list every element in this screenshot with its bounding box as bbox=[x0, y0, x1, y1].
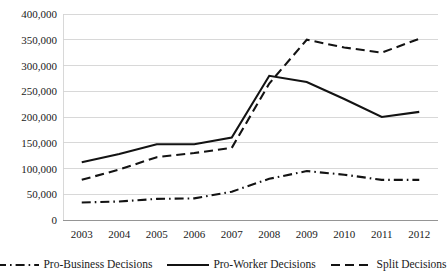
legend-item[interactable]: Pro-Business Decisions bbox=[0, 259, 152, 271]
series-line bbox=[82, 39, 420, 180]
legend-item[interactable]: Pro-Worker Decisions bbox=[166, 259, 315, 271]
legend-label: Split Decisions bbox=[377, 259, 447, 271]
series-line bbox=[82, 76, 420, 163]
chart-canvas: 050,000100,000150,000200,000250,000300,0… bbox=[0, 0, 443, 250]
y-axis-tick-label: 400,000 bbox=[21, 8, 57, 20]
y-axis-tick-label: 100,000 bbox=[21, 163, 57, 175]
y-axis-tick-label: 50,000 bbox=[27, 188, 58, 200]
series-lines bbox=[82, 39, 420, 203]
series-line bbox=[82, 171, 420, 202]
y-axis-tick-label: 150,000 bbox=[21, 137, 57, 149]
x-axis-tick-label: 2011 bbox=[371, 228, 393, 240]
x-axis-tick-label: 2008 bbox=[258, 228, 281, 240]
y-axis-tick-label: 200,000 bbox=[21, 111, 57, 123]
plot-area: 050,000100,000150,000200,000250,000300,0… bbox=[0, 0, 443, 250]
y-axis-tick-label: 250,000 bbox=[21, 85, 57, 97]
y-axis-tick-labels: 050,000100,000150,000200,000250,000300,0… bbox=[21, 8, 57, 226]
legend-item[interactable]: Split Decisions bbox=[330, 259, 447, 271]
y-axis-tick-label: 0 bbox=[52, 214, 58, 226]
legend-label: Pro-Business Decisions bbox=[43, 259, 152, 271]
x-axis-tick-label: 2006 bbox=[183, 228, 206, 240]
x-axis-tick-label: 2005 bbox=[146, 228, 169, 240]
x-axis-tick-labels: 2003200420052006200720082009201020112012 bbox=[71, 228, 431, 240]
y-axis-tick-label: 350,000 bbox=[21, 34, 57, 46]
x-axis-tick-label: 2004 bbox=[108, 228, 131, 240]
chart-legend: Pro-Business DecisionsPro-Worker Decisio… bbox=[0, 252, 443, 278]
x-axis-tick-label: 2009 bbox=[296, 228, 319, 240]
x-axis-tick-label: 2007 bbox=[221, 228, 244, 240]
solid-line-icon bbox=[166, 260, 210, 270]
x-axis-tick-label: 2010 bbox=[333, 228, 356, 240]
x-axis-tick-label: 2003 bbox=[71, 228, 94, 240]
dashed-line-icon bbox=[330, 260, 374, 270]
x-axis-tick-label: 2012 bbox=[408, 228, 430, 240]
dashdot-line-icon bbox=[0, 260, 40, 270]
legend-label: Pro-Worker Decisions bbox=[213, 259, 315, 271]
y-axis-tick-label: 300,000 bbox=[21, 60, 57, 72]
